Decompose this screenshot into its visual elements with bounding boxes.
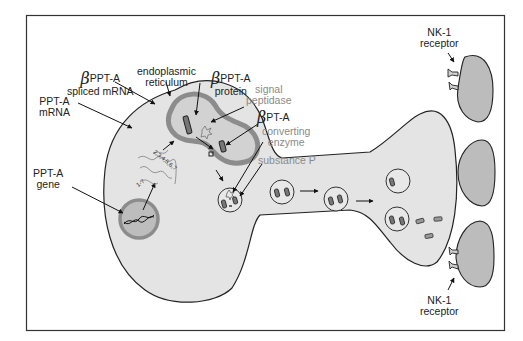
label-beta-ppta-protein: βPPT-A protein bbox=[211, 72, 251, 97]
label-beta-pt-a: βPT-A bbox=[257, 111, 290, 125]
target-cell-top bbox=[458, 56, 493, 122]
diagram-canvas bbox=[0, 0, 523, 341]
released-substance-p-2 bbox=[434, 217, 442, 222]
label-nk1-receptor-top: NK-1receptor bbox=[420, 27, 459, 49]
label-signal-peptidase: signalpeptidase bbox=[246, 84, 292, 106]
label-ppta-mrna: PPT-AmRNA bbox=[39, 96, 70, 118]
axon-vesicle-2 bbox=[324, 187, 348, 211]
terminal-vesicle-2 bbox=[385, 207, 409, 231]
label-beta-ppta-spliced-mrna: βPPT-A spliced mRNA bbox=[67, 72, 134, 97]
label-substance-p: substance P bbox=[258, 155, 316, 166]
label-nk1-receptor-bottom: NK-1receptor bbox=[420, 295, 459, 317]
label-ppta-gene: PPT-Agene bbox=[33, 168, 63, 190]
axon-vesicle-1 bbox=[270, 180, 294, 204]
label-converting-enzyme: convertingenzyme bbox=[262, 126, 310, 148]
label-endoplasmic-reticulum: endoplasmicreticulum bbox=[137, 66, 196, 88]
